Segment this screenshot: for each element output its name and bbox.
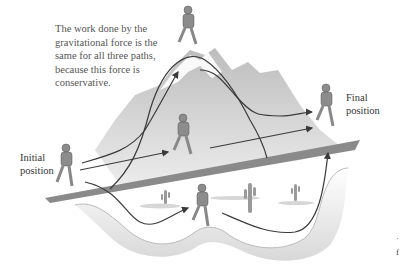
caption-line: because this force is [55,63,180,77]
runner-valley [193,184,208,226]
label-line: position [346,104,380,117]
cutoff-text: ˙ f [396,236,399,258]
caption-line: conservative. [55,76,180,90]
cactus-icons [140,183,314,213]
initial-position-label: Initial position [20,151,54,177]
valley-ground [75,168,348,261]
label-line: position [20,164,54,177]
caption-line: same for all three paths, [55,49,180,63]
label-line: Initial [20,151,54,164]
cutoff-line: ˙ [396,236,399,247]
caption-line: The work done by the [55,22,180,36]
runner-summit [179,6,196,44]
caption-line: gravitational force is the [55,36,180,50]
cutoff-line: f [396,247,399,258]
final-position-label: Final position [346,91,380,117]
runner-final [317,84,333,126]
figure-caption: The work done by the gravitational force… [55,22,180,90]
runner-initial [57,144,72,186]
label-line: Final [346,91,380,104]
